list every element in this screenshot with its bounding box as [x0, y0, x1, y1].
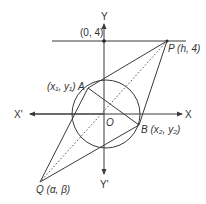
point-A-label: (x₁, y₁) A: [47, 81, 85, 92]
x-axis-label: X: [185, 109, 192, 120]
point-B-label: B (x₂, y₂): [141, 124, 180, 135]
y-axis-label: Y: [101, 11, 108, 22]
point-0-4: [102, 39, 106, 43]
origin-label: O: [106, 117, 114, 128]
point-Q-label: Q (α, β): [36, 184, 70, 195]
point-0-4-label: (0, 4): [80, 27, 103, 38]
point-P-label: P (h, 4): [168, 43, 200, 54]
tangent-P-A: [88, 41, 167, 88]
circle-tangent-diagram: Y Y' X X' O (0, 4) P (h, 4) (x₁, y₁) A B…: [0, 0, 206, 204]
y-neg-label: Y': [100, 179, 109, 190]
tangent-P-B: [139, 41, 167, 125]
x-neg-label: X': [14, 109, 23, 120]
